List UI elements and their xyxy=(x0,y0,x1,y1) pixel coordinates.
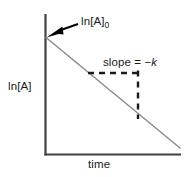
intercept-label-base: ln[A] xyxy=(81,15,105,27)
intercept-label-subscript: 0 xyxy=(105,20,110,30)
slope-label-prefix: slope = − xyxy=(103,56,151,68)
slope-label-rate-constant-symbol: k xyxy=(151,56,157,68)
slope-annotation-label: slope = −k xyxy=(103,57,157,69)
x-axis-label: time xyxy=(88,159,110,171)
data-line-lnA-vs-time xyxy=(46,38,180,149)
intercept-arrow-head xyxy=(47,27,64,38)
y-axis-label: ln[A] xyxy=(8,81,32,93)
first-order-kinetics-figure: ln[A] time ln[A]0 slope = −k xyxy=(0,0,191,177)
intercept-annotation-label: ln[A]0 xyxy=(81,16,109,28)
